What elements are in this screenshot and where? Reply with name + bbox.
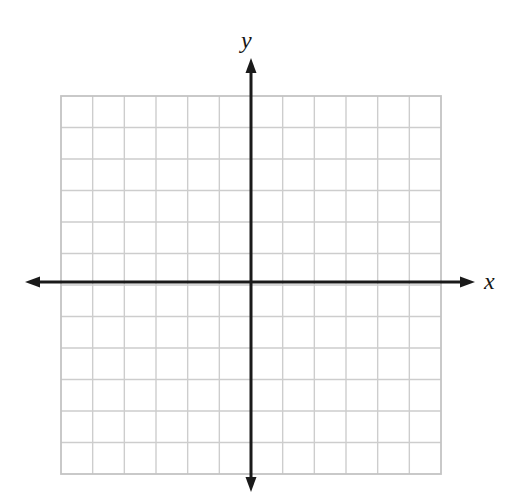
x-axis-label: x xyxy=(484,269,495,293)
y-axis-label: y xyxy=(241,28,252,52)
figure-background xyxy=(0,0,527,500)
coordinate-grid-figure: y x xyxy=(0,0,527,500)
coordinate-plane-svg xyxy=(0,0,527,500)
